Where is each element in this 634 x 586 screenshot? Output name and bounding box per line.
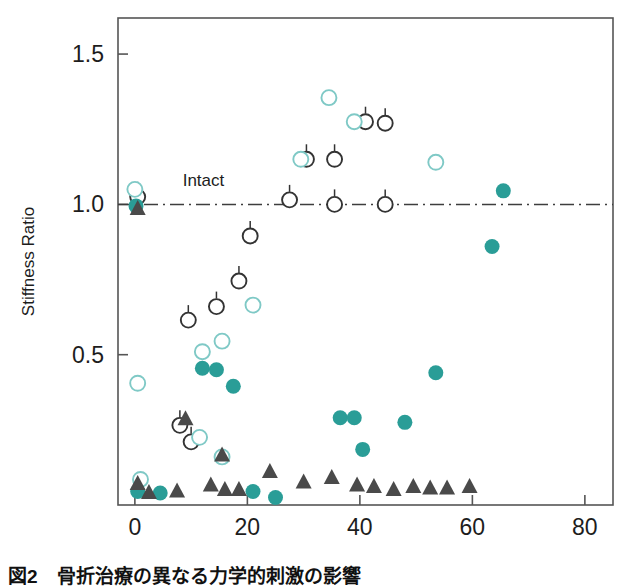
data-point <box>293 152 308 167</box>
data-point <box>282 192 297 207</box>
data-point <box>231 274 246 289</box>
figure-container: 0.51.01.5020406080Days, Post-FractureSti… <box>0 0 634 586</box>
y-tick-label: 0.5 <box>72 342 104 368</box>
data-point <box>324 469 340 484</box>
data-point <box>439 479 455 494</box>
data-point <box>262 463 278 478</box>
data-point <box>397 415 412 430</box>
data-point <box>209 299 224 314</box>
data-point <box>355 442 370 457</box>
y-tick-label: 1.5 <box>72 41 104 67</box>
data-point <box>231 481 247 496</box>
x-tick-label: 60 <box>460 514 486 540</box>
x-tick-label: 0 <box>128 514 141 540</box>
data-point <box>321 90 336 105</box>
data-point <box>195 344 210 359</box>
data-point <box>422 479 438 494</box>
data-point <box>246 298 261 313</box>
data-point <box>496 183 511 198</box>
x-tick-label: 40 <box>347 514 373 540</box>
data-point <box>485 239 500 254</box>
y-tick-label: 1.0 <box>72 191 104 217</box>
data-point <box>127 182 142 197</box>
scatter-plot: 0.51.01.5020406080Days, Post-FractureSti… <box>0 0 634 556</box>
data-point <box>366 478 382 493</box>
x-tick-label: 80 <box>572 514 598 540</box>
series-2 <box>129 183 511 505</box>
data-point <box>209 362 224 377</box>
data-point <box>181 313 196 328</box>
data-point <box>268 490 283 505</box>
figure-caption: 図2 骨折治療の異なる力学的刺激の影響 <box>8 561 628 586</box>
series-0 <box>130 107 393 450</box>
data-point <box>327 197 342 212</box>
series-3 <box>130 200 478 499</box>
plot-frame <box>118 18 613 505</box>
data-point <box>378 197 393 212</box>
data-point <box>378 116 393 131</box>
data-point <box>386 481 402 496</box>
data-point <box>347 114 362 129</box>
data-point <box>333 410 348 425</box>
data-point <box>203 476 219 491</box>
data-point <box>215 334 230 349</box>
data-point <box>349 476 365 491</box>
data-point <box>347 410 362 425</box>
data-point <box>195 361 210 376</box>
data-point <box>327 152 342 167</box>
data-point <box>405 478 421 493</box>
data-point <box>428 155 443 170</box>
data-point <box>296 473 312 488</box>
data-point <box>169 482 185 497</box>
data-point <box>243 228 258 243</box>
data-point <box>192 430 207 445</box>
intact-label: Intact <box>183 171 225 190</box>
data-point <box>428 365 443 380</box>
y-axis-title: Stiffness Ratio <box>19 207 38 316</box>
x-tick-label: 20 <box>235 514 261 540</box>
data-point <box>226 379 241 394</box>
data-point <box>217 481 233 496</box>
data-point <box>462 478 478 493</box>
data-point <box>130 376 145 391</box>
data-point <box>246 484 261 499</box>
